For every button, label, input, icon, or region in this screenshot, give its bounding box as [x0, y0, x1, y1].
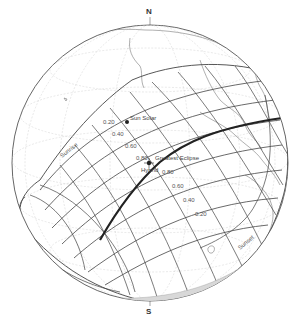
magnitude-label: 0.60 — [125, 143, 137, 149]
magnitude-label: 0.20 — [103, 119, 115, 125]
magnitude-label: 0.40 — [112, 131, 124, 137]
eclipse-globe-map: 0.20 0.40 0.60 0.80 0.80 0.60 0.40 0.20 … — [0, 0, 300, 323]
hybrid-label: Hybrid — [141, 167, 158, 173]
magnitude-label: 0.20 — [195, 211, 207, 217]
sun-solar-label: Sun Solar — [130, 115, 156, 121]
magnitude-label: 0.80 — [136, 155, 148, 161]
magnitude-label: 0.80 — [162, 169, 174, 175]
magnitude-label: 0.40 — [183, 197, 195, 203]
greatest-eclipse-label: Greatest Eclipse — [155, 155, 200, 161]
sun-solar-marker — [125, 120, 129, 124]
magnitude-label: 0.60 — [172, 183, 184, 189]
